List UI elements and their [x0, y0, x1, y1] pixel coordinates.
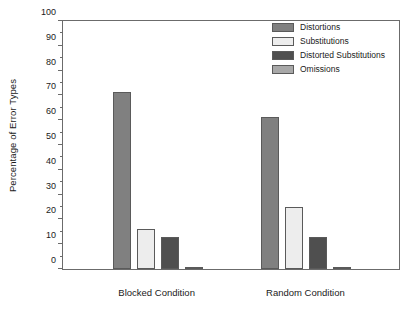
bar — [113, 92, 131, 270]
y-tick-minor — [60, 156, 63, 157]
bar — [137, 229, 155, 269]
y-tick-major — [58, 144, 63, 145]
bar — [161, 237, 179, 270]
x-category-label: Random Condition — [266, 287, 345, 298]
y-tick-minor — [60, 256, 63, 257]
legend-label: Substitutions — [300, 37, 349, 46]
legend-item: Distorted Substitutions — [272, 49, 385, 61]
y-tick-major — [58, 218, 63, 219]
bar — [261, 117, 279, 270]
legend-label: Omissions — [300, 65, 340, 74]
y-tick-major — [58, 194, 63, 195]
y-tick-minor — [60, 32, 63, 33]
y-tick-major — [58, 45, 63, 46]
y-tick-major — [58, 169, 63, 170]
y-tick-minor — [60, 107, 63, 108]
y-tick-label: 80 — [46, 57, 56, 66]
legend-item: Distortions — [272, 21, 385, 33]
legend-label: Distorted Substitutions — [300, 51, 385, 60]
bar — [285, 207, 303, 270]
y-tick-minor — [60, 181, 63, 182]
y-tick-label: 30 — [46, 181, 56, 190]
y-tick-label: 70 — [46, 82, 56, 91]
chart-figure: Percentage of Error Types 01020304050607… — [0, 0, 414, 313]
y-tick-minor — [60, 206, 63, 207]
y-tick-major — [58, 94, 63, 95]
y-tick-minor — [60, 82, 63, 83]
y-tick-major — [58, 70, 63, 71]
legend-item: Omissions — [272, 63, 385, 75]
y-tick-minor — [60, 231, 63, 232]
legend-swatch-icon — [272, 65, 294, 74]
y-tick-label: 50 — [46, 132, 56, 141]
y-tick-label: 0 — [51, 256, 56, 265]
chart-legend: DistortionsSubstitutionsDistorted Substi… — [272, 21, 385, 75]
bar — [185, 267, 203, 270]
y-tick-label: 20 — [46, 206, 56, 215]
legend-label: Distortions — [300, 23, 340, 32]
y-tick-major — [58, 268, 63, 269]
y-tick-minor — [60, 57, 63, 58]
y-tick-major — [58, 243, 63, 244]
legend-item: Substitutions — [272, 35, 385, 47]
y-tick-label: 60 — [46, 107, 56, 116]
y-axis-title: Percentage of Error Types — [2, 0, 24, 270]
legend-swatch-icon — [272, 51, 294, 60]
legend-swatch-icon — [272, 23, 294, 32]
y-tick-label: 40 — [46, 156, 56, 165]
legend-swatch-icon — [272, 37, 294, 46]
y-axis-title-text: Percentage of Error Types — [8, 78, 19, 191]
y-tick-label: 90 — [46, 32, 56, 41]
y-tick-minor — [60, 132, 63, 133]
bar — [309, 237, 327, 270]
y-tick-label: 100 — [41, 8, 56, 17]
y-tick-major — [58, 20, 63, 21]
x-category-label: Blocked Condition — [118, 287, 195, 298]
y-tick-major — [58, 119, 63, 120]
y-tick-label: 10 — [46, 231, 56, 240]
bar — [333, 267, 351, 270]
